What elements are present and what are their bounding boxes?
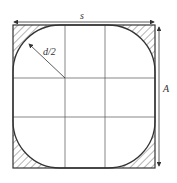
rounded-square-diagram: s d/2 A bbox=[0, 0, 177, 183]
hatched-corners bbox=[13, 25, 155, 168]
width-label: s bbox=[80, 10, 84, 21]
diagram: s d/2 A bbox=[0, 0, 177, 183]
outer-square bbox=[13, 25, 155, 168]
grid-lines bbox=[13, 25, 155, 168]
height-label: A bbox=[162, 83, 170, 94]
radius-label: d/2 bbox=[43, 46, 56, 57]
rounded-shape bbox=[13, 25, 155, 168]
